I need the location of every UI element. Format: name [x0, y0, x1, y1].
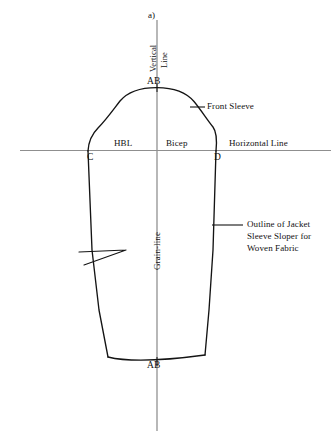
point-label-cap-top: AB [147, 76, 160, 87]
point-label-c: C [87, 152, 93, 163]
point-label-hem-center: AB [147, 360, 160, 371]
outline-annotation-line3: Woven Fabric [247, 243, 299, 253]
vertical-line-label-part2: Line [160, 52, 170, 68]
elbow-dart [79, 250, 126, 265]
horizontal-line-label: Horizontal Line [229, 138, 288, 148]
front-sleeve-annotation: Front Sleeve [207, 101, 254, 111]
sleeve-cap-curve [88, 88, 217, 151]
right-side-seam [205, 151, 216, 355]
point-label-d: D [214, 152, 221, 163]
left-side-seam [88, 151, 108, 357]
vertical-line-label-part1: Vertical [149, 45, 159, 72]
outline-annotation-line2: Sleeve Sloper for [247, 231, 311, 241]
bicep-measure-label: Bicep [166, 138, 188, 148]
outline-annotation-line1: Outline of Jacket [247, 219, 310, 229]
hbl-measure-label: HBL [114, 138, 132, 148]
grain-line-label: Grain-line [152, 232, 162, 270]
panel-label: a) [148, 10, 155, 20]
figure-canvas: a) Vertical Line AB Front Sleeve HBL Bic… [0, 0, 335, 440]
